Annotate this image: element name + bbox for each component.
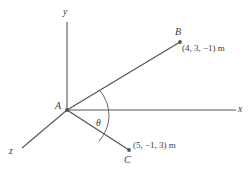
angle-theta-arc bbox=[99, 90, 109, 141]
point-b-coordinates-label: (4, 3, −1) m bbox=[182, 44, 225, 53]
z-axis-line bbox=[22, 110, 67, 148]
point-a-label: A bbox=[55, 101, 61, 111]
angle-theta-label: θ bbox=[96, 119, 101, 129]
point-b-label: B bbox=[175, 27, 181, 37]
point-c-coordinates-label: (5, −1, 3) m bbox=[133, 141, 176, 150]
x-axis-label: x bbox=[238, 105, 242, 115]
origin-point-a-dot bbox=[65, 108, 69, 112]
y-axis-label: y bbox=[63, 8, 67, 18]
z-axis-label: z bbox=[9, 147, 13, 157]
point-c-dot bbox=[127, 148, 131, 152]
segment-ab-line bbox=[67, 42, 180, 110]
vector-diagram-figure: y x z A B (4, 3, −1) m C (5, −1, 3) m θ bbox=[0, 0, 251, 175]
diagram-canvas bbox=[0, 0, 251, 175]
point-c-label: C bbox=[124, 155, 131, 165]
segment-ac-line bbox=[67, 110, 129, 150]
